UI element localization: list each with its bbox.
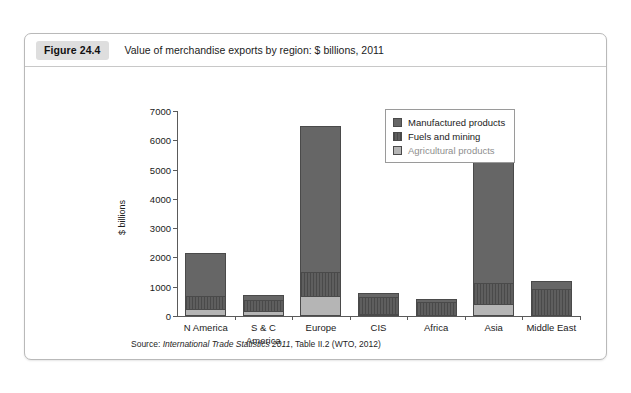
source-rest: , Table II.2 (WTO, 2012) — [290, 339, 380, 349]
y-tick-mark-2000 — [173, 257, 177, 258]
bar-cis[interactable] — [358, 293, 399, 316]
segment-agricultural[interactable] — [473, 304, 514, 316]
legend-label-agricultural: Agricultural products — [408, 145, 495, 156]
y-tick-1000: 1000 — [150, 281, 171, 292]
y-tick-4000: 4000 — [150, 193, 171, 204]
segment-fuels[interactable] — [358, 297, 399, 314]
y-axis-tick-labels: 01000200030004000500060007000 — [129, 67, 171, 360]
segment-manufactured[interactable] — [300, 126, 341, 272]
segment-manufactured[interactable] — [416, 299, 457, 302]
figure-title: Value of merchandise exports by region: … — [125, 44, 384, 56]
x-label-africa: Africa — [424, 322, 448, 333]
x-tick-mark-5 — [522, 316, 523, 320]
segment-fuels[interactable] — [185, 296, 226, 308]
y-tick-0: 0 — [166, 311, 171, 322]
bar-asia[interactable] — [473, 158, 514, 316]
segment-agricultural[interactable] — [185, 309, 226, 316]
segment-fuels[interactable] — [416, 302, 457, 315]
x-label-asia: Asia — [484, 322, 502, 333]
segment-agricultural[interactable] — [300, 296, 341, 316]
x-tick-mark-2 — [350, 316, 351, 320]
y-tick-mark-5000 — [173, 170, 177, 171]
figure-card: Figure 24.4 Value of merchandise exports… — [24, 33, 607, 360]
segment-fuels[interactable] — [300, 272, 341, 296]
x-label-cis: CIS — [371, 322, 387, 333]
segment-manufactured[interactable] — [185, 253, 226, 296]
bar-europe[interactable] — [300, 126, 341, 316]
x-label-n-america: N America — [184, 322, 228, 333]
legend-swatch-manufactured-icon — [393, 118, 402, 127]
segment-fuels[interactable] — [473, 283, 514, 304]
source-note: Source: International Trade Statistics 2… — [131, 339, 381, 349]
x-tick-mark-0 — [235, 316, 236, 320]
y-tick-mark-3000 — [173, 228, 177, 229]
y-tick-mark-6000 — [173, 140, 177, 141]
y-tick-mark-7000 — [173, 111, 177, 112]
segment-manufactured[interactable] — [531, 281, 572, 288]
y-tick-6000: 6000 — [150, 135, 171, 146]
segment-manufactured[interactable] — [243, 295, 284, 301]
y-tick-mark-1000 — [173, 287, 177, 288]
x-tick-mark-6 — [580, 316, 581, 320]
segment-fuels[interactable] — [531, 289, 572, 315]
segment-manufactured[interactable] — [358, 293, 399, 297]
y-axis-line — [177, 111, 178, 317]
legend-label-fuels: Fuels and mining — [408, 131, 480, 142]
legend-item-agricultural[interactable]: Agricultural products — [393, 143, 505, 157]
y-tick-3000: 3000 — [150, 223, 171, 234]
y-tick-mark-4000 — [173, 199, 177, 200]
segment-manufactured[interactable] — [473, 158, 514, 283]
legend-item-manufactured[interactable]: Manufactured products — [393, 115, 505, 129]
segment-agricultural[interactable] — [243, 311, 284, 316]
legend-item-fuels[interactable]: Fuels and mining — [393, 129, 505, 143]
legend-label-manufactured: Manufactured products — [408, 117, 505, 128]
x-label-s-c-america: S & C — [251, 322, 276, 333]
bar-africa[interactable] — [416, 299, 457, 316]
y-tick-2000: 2000 — [150, 252, 171, 263]
legend-swatch-agricultural-icon — [393, 146, 402, 155]
bar-s-c-america[interactable] — [243, 295, 284, 316]
x-tick-mark-4 — [465, 316, 466, 320]
x-axis-line — [177, 316, 580, 317]
bar-n-america[interactable] — [185, 253, 226, 316]
chart-legend: Manufactured productsFuels and miningAgr… — [385, 109, 515, 163]
x-label-middle-east: Middle East — [526, 322, 576, 333]
legend-swatch-fuels-icon — [393, 132, 402, 141]
screenshot-root: Figure 24.4 Value of merchandise exports… — [0, 0, 631, 393]
x-label-europe: Europe — [306, 322, 337, 333]
source-title: International Trade Statistics 2011 — [163, 339, 291, 349]
x-tick-mark-3 — [407, 316, 408, 320]
y-tick-5000: 5000 — [150, 164, 171, 175]
y-tick-mark-0 — [173, 316, 177, 317]
figure-header: Figure 24.4 Value of merchandise exports… — [25, 34, 606, 67]
segment-agricultural[interactable] — [358, 314, 399, 316]
source-prefix: Source: — [131, 339, 163, 349]
y-tick-7000: 7000 — [150, 106, 171, 117]
bar-middle-east[interactable] — [531, 281, 572, 316]
x-tick-mark-1 — [292, 316, 293, 320]
figure-number-badge: Figure 24.4 — [36, 41, 109, 60]
chart-plot-area: $ billions 01000200030004000500060007000… — [25, 67, 608, 360]
y-axis-label: $ billions — [117, 200, 127, 235]
segment-fuels[interactable] — [243, 300, 284, 310]
